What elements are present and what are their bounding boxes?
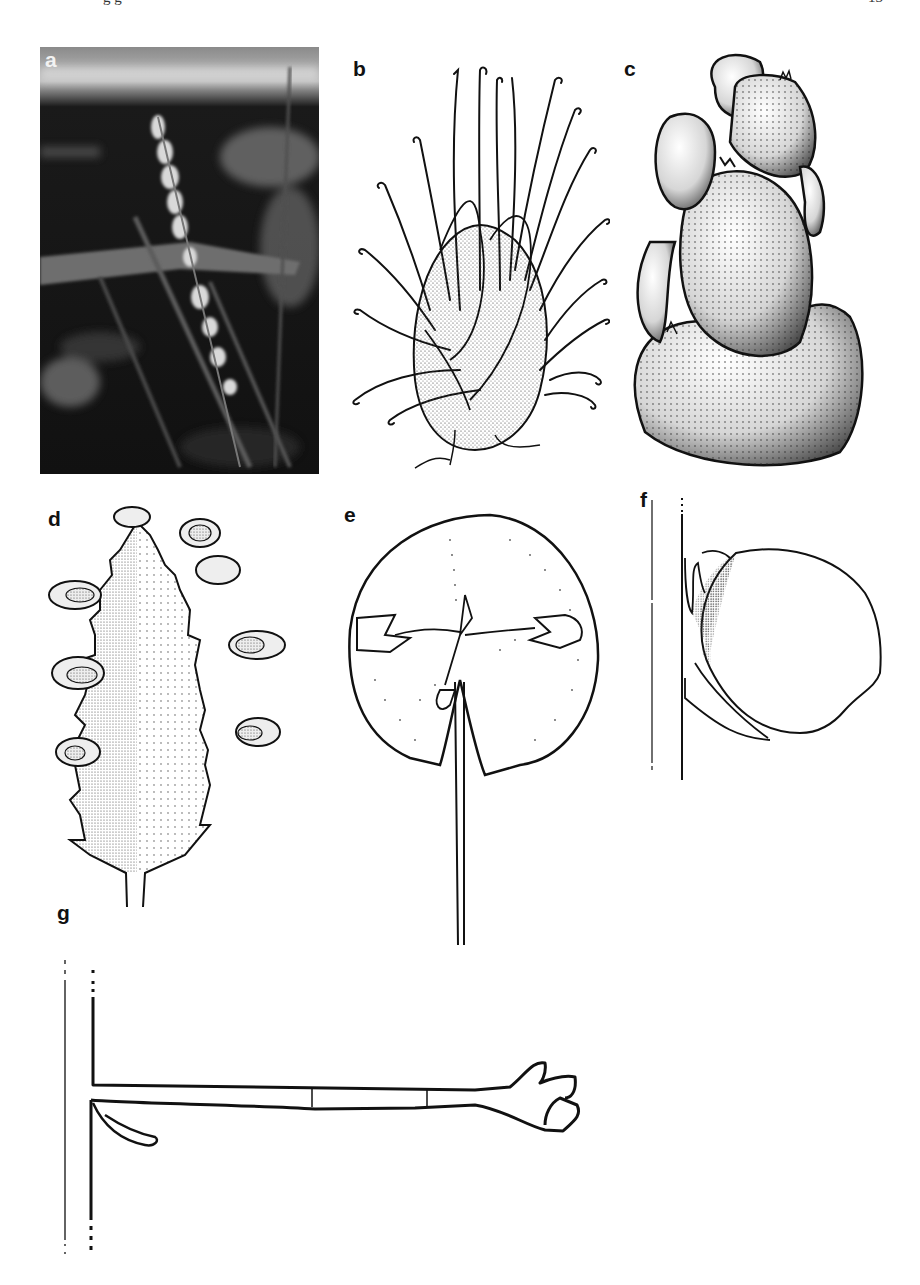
panel-label-b: b xyxy=(353,58,366,79)
side-view-drawing xyxy=(640,488,920,788)
panel-label-d: d xyxy=(48,508,61,529)
panel-b-inflorescence: b xyxy=(340,50,610,470)
panel-label-c: c xyxy=(624,58,636,79)
flowering-spike-photo xyxy=(40,47,319,474)
jointed-branch-drawing xyxy=(55,905,635,1285)
panel-label-f: f xyxy=(640,489,647,510)
panel-label-a: a xyxy=(45,49,57,70)
panel-c-fruit-cluster: c xyxy=(615,42,875,472)
peltate-bract-drawing xyxy=(340,500,610,950)
panel-a-photo: a xyxy=(40,47,319,474)
running-header-text: g g xyxy=(103,0,122,6)
running-header: g g 13 xyxy=(0,0,920,9)
panel-label-g: g xyxy=(57,902,70,923)
panel-d-leaf: d xyxy=(40,495,300,910)
panel-label-e: e xyxy=(344,504,356,525)
serrate-leaf-drawing xyxy=(40,495,300,910)
page-number: 13 xyxy=(868,0,883,6)
fruit-cluster-drawing xyxy=(615,42,875,472)
panel-g-jointed-branch: g xyxy=(55,905,635,1285)
panel-f-side-view: f xyxy=(640,488,920,788)
panel-e-peltate-bract: e xyxy=(340,500,610,950)
inflorescence-drawing xyxy=(340,50,610,470)
